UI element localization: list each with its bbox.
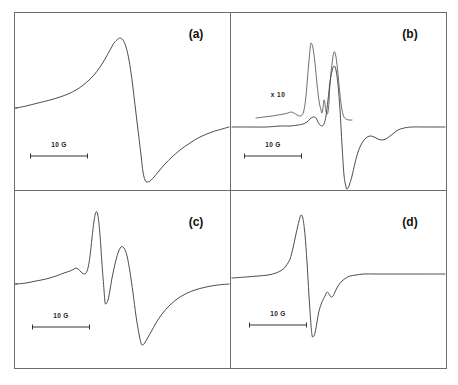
- panel-label-b: (b): [402, 27, 417, 41]
- panel-label-a: (a): [189, 27, 204, 41]
- scalebar-label-a: 10 G: [51, 141, 66, 148]
- spectrum-trace-c: [16, 212, 229, 345]
- panel-label-c: (c): [189, 215, 204, 229]
- panel-label-d: (d): [402, 215, 417, 229]
- scalebar-a: 10 G: [30, 141, 88, 159]
- multiplier-label-b: x 10: [271, 91, 286, 98]
- spectrum-trace-d: [232, 215, 445, 337]
- panel-b: (b)10 Gx 10: [232, 27, 445, 189]
- scalebar-d: 10 G: [249, 310, 307, 328]
- scalebar-label-d: 10 G: [270, 310, 285, 317]
- scalebar-b: 10 G: [244, 141, 302, 159]
- panel-c: (c)10 G: [15, 212, 229, 345]
- epr-spectra-figure: (a)10 G(b)10 Gx 10(c)10 G(d)10 G: [0, 0, 458, 385]
- scalebar-label-c: 10 G: [53, 312, 68, 319]
- panel-d: (d)10 G: [232, 215, 445, 337]
- figure-canvas: (a)10 G(b)10 Gx 10(c)10 G(d)10 G: [0, 0, 458, 385]
- scalebar-c: 10 G: [32, 312, 90, 330]
- spectrum-trace-b: [232, 66, 445, 189]
- panel-a: (a)10 G: [15, 27, 229, 182]
- spectrum-trace-a: [16, 38, 229, 182]
- scalebar-label-b: 10 G: [265, 141, 280, 148]
